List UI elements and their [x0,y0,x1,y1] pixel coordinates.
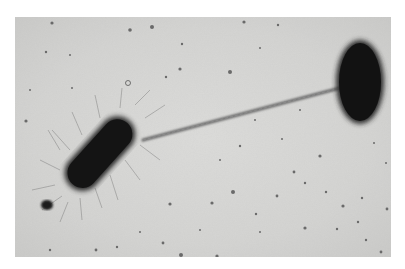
recipient-bacterium [336,40,384,124]
micrograph-frame [15,17,391,257]
micrograph-image [15,17,391,257]
small-particle [41,200,53,210]
